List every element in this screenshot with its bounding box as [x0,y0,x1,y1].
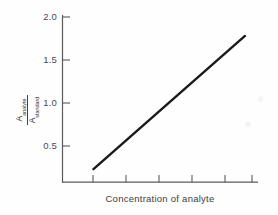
denominator-subscript: standard [34,97,40,118]
x-axis-ticks [93,175,252,182]
calibration-line [93,36,245,169]
y-tick-label-2.0: 2.0 [33,11,57,22]
figure-container: 2.0 1.5 1.0 0.5 Aanalyte Astandard Conce… [0,0,278,215]
y-axis-title: Aanalyte Astandard [5,89,49,131]
numerator-symbol: A [14,116,24,122]
fraction-denominator: Astandard [27,95,40,126]
x-axis-title: Concentration of analyte [62,193,258,204]
y-axis-ticks [63,17,71,146]
numerator-subscript: analyte [21,98,27,115]
y-axis-fraction: Aanalyte Astandard [15,95,40,126]
denominator-symbol: A [27,118,37,124]
y-tick-label-1.5: 1.5 [33,54,57,65]
y-tick-label-0.5: 0.5 [33,140,57,151]
fraction-numerator: Aanalyte [15,96,27,123]
